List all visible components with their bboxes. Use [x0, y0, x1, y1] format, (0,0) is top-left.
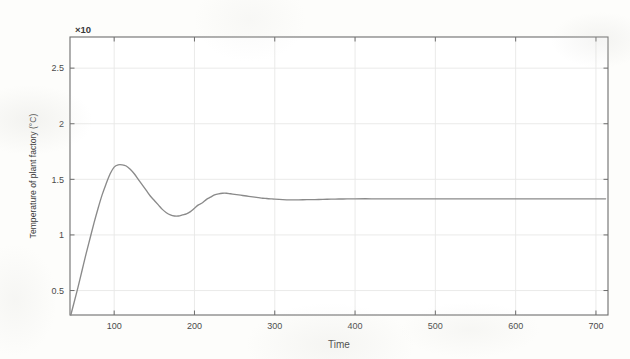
x-tick-label-700: 700 — [588, 321, 603, 331]
plot-background — [70, 37, 608, 315]
y-axis-multiplier-label: ×10 — [75, 24, 91, 35]
y-axis-tick-labels: 0.511.522.5 — [51, 63, 64, 295]
x-axis-title: Time — [328, 339, 350, 350]
x-tick-label-500: 500 — [428, 321, 443, 331]
x-tick-label-600: 600 — [508, 321, 523, 331]
y-axis-title: Temperature of plant factory (°C) — [28, 113, 38, 238]
x-axis-tick-labels: 100200300400500600700 — [107, 321, 604, 331]
y-tick-label-0.5: 0.5 — [51, 286, 64, 296]
y-tick-label-1: 1 — [59, 230, 64, 240]
x-tick-label-200: 200 — [187, 321, 202, 331]
temperature-step-response-chart: 100200300400500600700 0.511.522.5 ×10 Ti… — [0, 0, 630, 359]
x-tick-label-300: 300 — [267, 321, 282, 331]
y-tick-label-2.5: 2.5 — [51, 63, 64, 73]
y-tick-label-2: 2 — [59, 119, 64, 129]
y-tick-label-1.5: 1.5 — [51, 175, 64, 185]
x-tick-label-100: 100 — [107, 321, 122, 331]
x-tick-label-400: 400 — [348, 321, 363, 331]
